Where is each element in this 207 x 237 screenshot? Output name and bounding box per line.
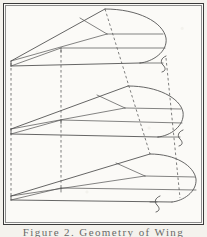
lower-chord-line-mid	[61, 188, 196, 190]
middle-trailing-edge	[11, 134, 158, 137]
lower-rib-line-b	[145, 176, 195, 177]
figure-page: .ln { fill:none; stroke:#4a4a4a; stroke-…	[0, 0, 207, 237]
wing-geometry-figure: .ln { fill:none; stroke:#4a4a4a; stroke-…	[0, 0, 207, 237]
middle-rib-line-b	[125, 108, 181, 109]
middle-rib-line-c	[97, 95, 125, 108]
figure-caption-text: Figure 2. Geometry of Wing	[3, 227, 204, 237]
upper-rib-line-a	[11, 34, 107, 61]
middle-rib-line-a	[11, 108, 125, 129]
lower-rib-line-c	[116, 163, 145, 176]
apex-slanted-guide	[105, 9, 150, 154]
upper-wing-planform	[11, 9, 166, 72]
lower-wing-tip-curve	[150, 154, 196, 202]
middle-inboard-panel-edge	[11, 120, 61, 134]
upper-leading-edge	[11, 9, 105, 61]
upper-trailing-notch	[161, 56, 166, 72]
figure-caption: Figure 2. Geometry of Wing	[3, 226, 204, 237]
lower-trailing-edge	[11, 200, 172, 202]
middle-wing-planform	[11, 86, 183, 146]
lower-leading-edge	[11, 154, 150, 196]
lower-wing-planform	[11, 154, 196, 212]
middle-trailing-notch	[178, 130, 183, 146]
middle-wing-tip-curve	[128, 86, 183, 137]
upper-trailing-edge	[11, 63, 140, 66]
upper-rib-line-c	[80, 18, 107, 34]
lower-trailing-notch	[155, 196, 160, 212]
middle-chord-line-mid	[61, 120, 182, 123]
lower-rib-line-a	[11, 176, 145, 196]
middle-leading-edge	[11, 86, 128, 129]
upper-wing-tip-curve	[105, 9, 166, 63]
